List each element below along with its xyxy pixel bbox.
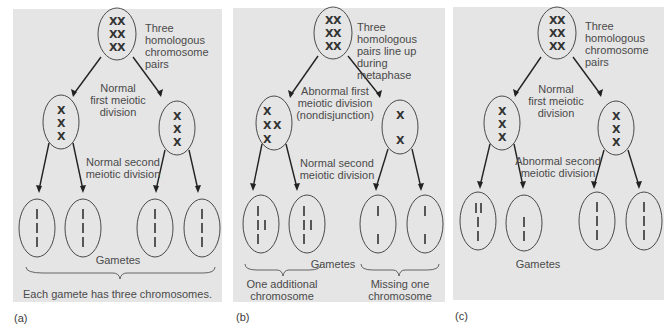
gametes-brace bbox=[26, 267, 215, 279]
second-division-caption: Abnormal second meiotic division bbox=[513, 155, 603, 179]
svg-text:X: X bbox=[557, 14, 566, 27]
gamete-extra bbox=[243, 195, 279, 253]
svg-text:X: X bbox=[396, 109, 405, 122]
gametes-label: Gametes bbox=[303, 258, 363, 270]
svg-text:X: X bbox=[57, 117, 66, 130]
first-division-caption: Normal first meiotic division bbox=[88, 82, 148, 118]
gamete-missing bbox=[360, 195, 396, 253]
panel-label-b: (b) bbox=[236, 311, 249, 323]
panel-a: XX XX XX XXX XXX Three homologous chr bbox=[13, 9, 222, 302]
svg-text:X: X bbox=[612, 123, 621, 136]
svg-text:X: X bbox=[612, 110, 621, 123]
chromosome-pairs-icon: XX XX XX bbox=[109, 15, 126, 54]
panel-c: XX XX XX XXX XXX Three homologous chromo… bbox=[453, 7, 664, 300]
parent-caption: Three homologous chromosome pairs bbox=[145, 22, 209, 70]
parent-caption: Three homologous chromosome pairs bbox=[585, 20, 649, 68]
svg-text:X: X bbox=[557, 27, 566, 40]
svg-text:X: X bbox=[263, 119, 272, 132]
missing-chromosome-caption: Missing one chromosome bbox=[357, 278, 443, 302]
svg-text:X: X bbox=[498, 105, 507, 118]
second-division-caption: Normal second meiotic division bbox=[297, 157, 377, 181]
gamete-summary: Each gamete has three chromosomes. bbox=[13, 288, 222, 300]
panel-b: XX XX XX XXXX XX Three homologous pairs … bbox=[233, 8, 445, 302]
first-division-caption: Abnormal first meiotic division (nondisj… bbox=[295, 85, 375, 121]
second-division-caption: Normal second meiotic division bbox=[83, 156, 163, 180]
svg-text:X: X bbox=[273, 119, 282, 132]
svg-text:X: X bbox=[117, 28, 126, 41]
gamete-extra bbox=[289, 195, 325, 253]
svg-text:X: X bbox=[396, 134, 405, 147]
svg-text:X: X bbox=[333, 40, 342, 53]
gamete-missing bbox=[407, 195, 443, 253]
chromosome-pairs-icon: XX XX XX bbox=[549, 14, 566, 53]
panel-label-c: (c) bbox=[455, 310, 468, 322]
svg-text:X: X bbox=[57, 130, 66, 143]
gametes-label: Gametes bbox=[83, 254, 153, 266]
first-division-caption: Normal first meiotic division bbox=[521, 83, 591, 119]
svg-text:X: X bbox=[333, 14, 342, 27]
svg-text:X: X bbox=[173, 110, 182, 123]
svg-text:X: X bbox=[173, 136, 182, 149]
panel-label-a: (a) bbox=[14, 312, 27, 324]
extra-chromosome-caption: One additional chromosome bbox=[237, 278, 327, 302]
svg-text:X: X bbox=[498, 118, 507, 131]
chromosome-pairs-icon: XX XX XX bbox=[325, 14, 342, 53]
parent-caption: Three homologous pairs line up during me… bbox=[357, 21, 417, 81]
svg-text:X: X bbox=[263, 133, 272, 146]
svg-text:X: X bbox=[117, 41, 126, 54]
svg-text:X: X bbox=[117, 15, 126, 28]
svg-text:X: X bbox=[57, 104, 66, 117]
svg-text:X: X bbox=[173, 123, 182, 136]
svg-text:X: X bbox=[333, 27, 342, 40]
gametes-label: Gametes bbox=[508, 258, 568, 270]
svg-text:X: X bbox=[557, 40, 566, 53]
svg-text:X: X bbox=[612, 136, 621, 149]
svg-text:X: X bbox=[263, 105, 272, 118]
svg-text:X: X bbox=[498, 131, 507, 144]
missing-brace bbox=[361, 264, 439, 276]
